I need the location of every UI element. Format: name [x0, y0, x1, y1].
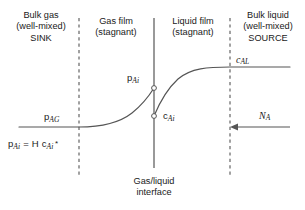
- zone-bulk-gas-line1: Bulk gas: [8, 10, 74, 21]
- equation-rhs-sub: Ai: [46, 142, 53, 151]
- zone-label-gas-film: Gas film (stagnant): [85, 16, 147, 39]
- zone-label-liquid-film: Liquid film (stagnant): [160, 16, 226, 39]
- zone-label-bulk-gas: Bulk gas (well-mixed) SINK: [8, 10, 74, 44]
- label-c-Ai-sub: Ai: [168, 114, 175, 123]
- henry-law-equation: pAi=HcAi*: [8, 138, 58, 151]
- equation-star: *: [55, 139, 58, 148]
- zone-bulk-gas-line2: (well-mixed): [8, 21, 74, 32]
- label-p-AG-sub: AG: [49, 115, 59, 124]
- label-N-A-sub: A: [266, 113, 271, 122]
- equation-lhs-sub: Ai: [13, 142, 20, 151]
- zone-gas-film-line1: Gas film: [85, 16, 147, 27]
- zone-gas-film-line2: (stagnant): [85, 27, 147, 38]
- label-N-A-base: N: [259, 110, 266, 121]
- label-p-AG: pAG: [44, 111, 60, 124]
- equation-operator: =: [23, 138, 29, 149]
- zone-label-bulk-liquid: Bulk liquid (well-mixed) SOURCE: [235, 10, 301, 44]
- label-c-Ai: cAi: [163, 110, 175, 123]
- zone-liquid-film-line2: (stagnant): [160, 27, 226, 38]
- label-c-AL: cAL: [236, 54, 249, 66]
- c-Ai-marker-icon: [152, 114, 157, 119]
- figure-canvas: Bulk gas (well-mixed) SINK Gas film (sta…: [0, 0, 305, 210]
- label-p-Ai-sub: Ai: [132, 76, 139, 85]
- equation-henry-constant: H: [32, 138, 39, 149]
- zone-bulk-liquid-line2: (well-mixed): [235, 21, 301, 32]
- interface-caption-line2: interface: [119, 187, 189, 198]
- label-c-AL-sub: AL: [240, 57, 249, 66]
- zone-bulk-gas-line3: SINK: [8, 33, 74, 44]
- zone-bulk-liquid-line3: SOURCE: [235, 33, 301, 44]
- flux-arrow-head: [230, 124, 238, 131]
- liquid-phase-profile-curve: [154, 67, 290, 116]
- interface-caption: Gas/liquid interface: [119, 176, 189, 199]
- label-p-Ai: pAi: [127, 72, 139, 85]
- label-N-A: NA: [259, 110, 270, 122]
- zone-bulk-liquid-line1: Bulk liquid: [235, 10, 301, 21]
- zone-liquid-film-line1: Liquid film: [160, 16, 226, 27]
- gas-phase-profile-curve: [19, 88, 154, 127]
- p-Ai-marker-icon: [152, 86, 157, 91]
- interface-caption-line1: Gas/liquid: [119, 176, 189, 187]
